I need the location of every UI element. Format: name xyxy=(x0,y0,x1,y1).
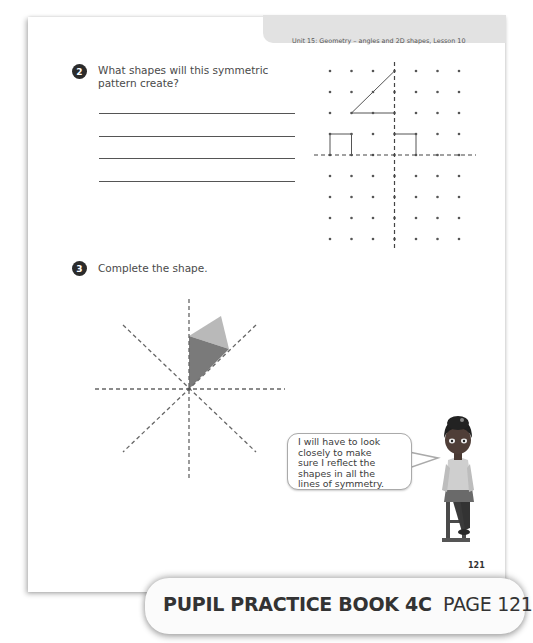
book-title: PUPIL PRACTICE BOOK 4C xyxy=(163,593,432,615)
page-number: 121 xyxy=(468,561,485,570)
book-label: PUPIL PRACTICE BOOK 4C PAGE 121 xyxy=(163,593,533,615)
book-page-ref: PAGE 121 xyxy=(443,593,533,615)
